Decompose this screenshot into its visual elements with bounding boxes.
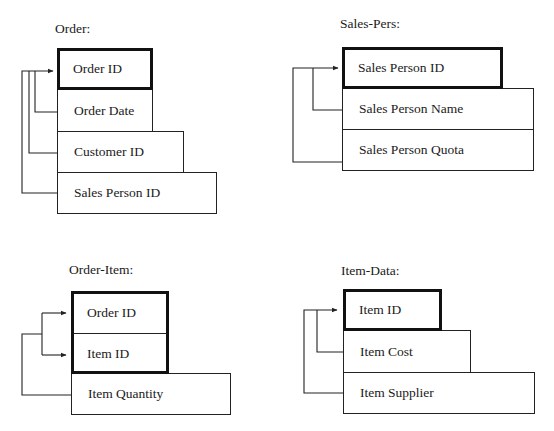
table-title-item-data: Item-Data: xyxy=(341,263,399,279)
table-title-order-item: Order-Item: xyxy=(69,262,133,278)
field-item-quantity: Item Quantity xyxy=(71,373,231,415)
field-item-supplier: Item Supplier xyxy=(343,372,535,414)
field-sales-person-quota: Sales Person Quota xyxy=(342,129,534,171)
primary-key-order-id: Order ID xyxy=(71,292,169,334)
field-customer-id: Customer ID xyxy=(57,131,184,173)
field-order-date: Order Date xyxy=(57,89,153,132)
field-item-cost: Item Cost xyxy=(343,330,471,373)
field-sales-person-name: Sales Person Name xyxy=(342,88,534,130)
primary-key-order-id: Order ID xyxy=(57,48,153,90)
primary-key-item-id: Item ID xyxy=(71,333,169,374)
primary-key-item-id: Item ID xyxy=(343,289,442,331)
field-sales-person-id: Sales Person ID xyxy=(57,172,217,214)
table-title-order: Order: xyxy=(55,21,90,37)
primary-key-sales-person-id: Sales Person ID xyxy=(342,47,503,89)
table-title-sales-pers: Sales-Pers: xyxy=(340,16,400,32)
